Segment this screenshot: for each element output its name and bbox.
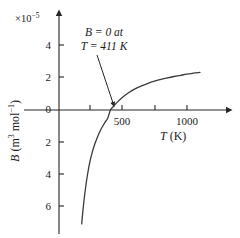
annotation-arrow	[97, 55, 113, 103]
y-tick-label-4: 4	[31, 40, 51, 51]
y-axis-title: B (m3 mol−1)	[9, 83, 21, 179]
x-tick-label-1000: 1000	[165, 116, 209, 127]
y-tick-label-2: 2	[31, 72, 51, 83]
x-axis-ticks	[90, 105, 187, 110]
annotation-line-1: B = 0 at	[68, 27, 140, 39]
y-tick-label-neg4: 4	[31, 169, 51, 180]
y-tick-label-neg6: 6	[31, 201, 51, 212]
x-tick-label-500: 500	[100, 116, 144, 127]
virial-coefficient-curve	[82, 72, 200, 223]
boyle-temperature-chart: ×10−5 4 2 0 2 4 6 500 1000 B (m3 mol−1) …	[0, 0, 240, 238]
y-tick-label-0: 0	[31, 104, 51, 115]
x-axis-title: T (K)	[160, 130, 186, 142]
y-axis-ticks	[59, 45, 64, 206]
annotation-line-2: T = 411 K	[68, 41, 140, 53]
y-tick-label-neg2: 2	[31, 137, 51, 148]
y-axis-scale-exponent: ×10−5	[15, 14, 39, 25]
